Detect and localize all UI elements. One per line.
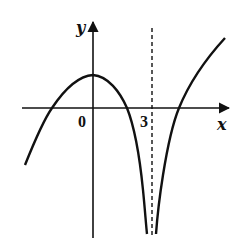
curve-left-branch <box>25 75 147 234</box>
function-graph: y x 0 3 <box>0 0 248 250</box>
curve-right-branch <box>156 38 225 234</box>
origin-label: 0 <box>78 113 86 130</box>
x-axis-label: x <box>216 115 227 134</box>
y-axis-label: y <box>75 18 87 37</box>
tick-label-3: 3 <box>140 113 148 130</box>
